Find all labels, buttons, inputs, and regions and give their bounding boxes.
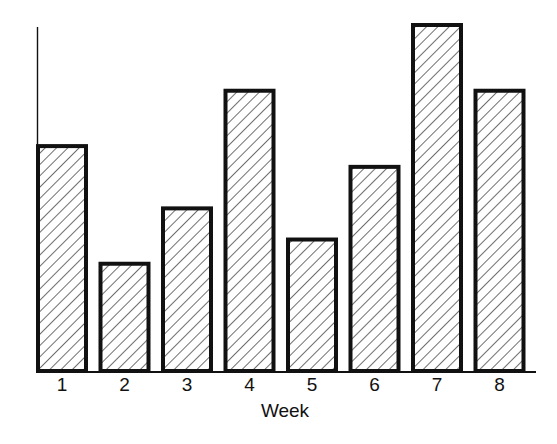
x-tick-label: 6: [369, 374, 380, 395]
x-tick-label: 3: [182, 374, 193, 395]
x-tick-label: 8: [494, 374, 505, 395]
bar-week-5: [288, 240, 336, 371]
bar-week-7: [413, 25, 461, 371]
x-axis-title: Week: [261, 400, 310, 421]
bar-week-1: [38, 146, 86, 371]
bar-week-4: [226, 91, 274, 371]
bar-week-8: [476, 91, 524, 371]
bar-week-3: [163, 208, 211, 371]
x-tick-label: 1: [57, 374, 68, 395]
x-tick-label: 4: [244, 374, 255, 395]
bar-week-6: [351, 167, 399, 371]
x-tick-labels: 12345678: [57, 374, 505, 395]
bar-week-2: [101, 264, 149, 371]
x-tick-label: 5: [307, 374, 318, 395]
x-tick-label: 7: [432, 374, 443, 395]
x-tick-label: 2: [119, 374, 130, 395]
bar-chart: 12345678 Week: [0, 0, 557, 444]
bars-group: [38, 25, 524, 371]
